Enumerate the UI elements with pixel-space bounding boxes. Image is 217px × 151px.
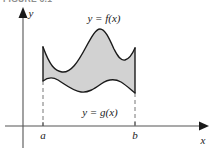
figure-container: FIGURE 6.1 y x y = f(x) y = bbox=[0, 0, 217, 151]
curve-label-g-of-x: y = g(x) bbox=[81, 106, 118, 119]
y-axis-arrowhead bbox=[19, 7, 28, 18]
y-axis-label: y bbox=[28, 7, 34, 19]
x-tick-label-a: a bbox=[40, 129, 46, 141]
x-axis-label: x bbox=[200, 134, 206, 146]
x-tick-label-b: b bbox=[132, 129, 138, 141]
area-between-curves-diagram: y x y = f(x) y = g(x) a b bbox=[0, 0, 217, 151]
x-axis-arrowhead bbox=[199, 122, 209, 131]
curve-label-f-of-x: y = f(x) bbox=[86, 12, 120, 25]
shaded-region-between-curves bbox=[43, 29, 135, 93]
